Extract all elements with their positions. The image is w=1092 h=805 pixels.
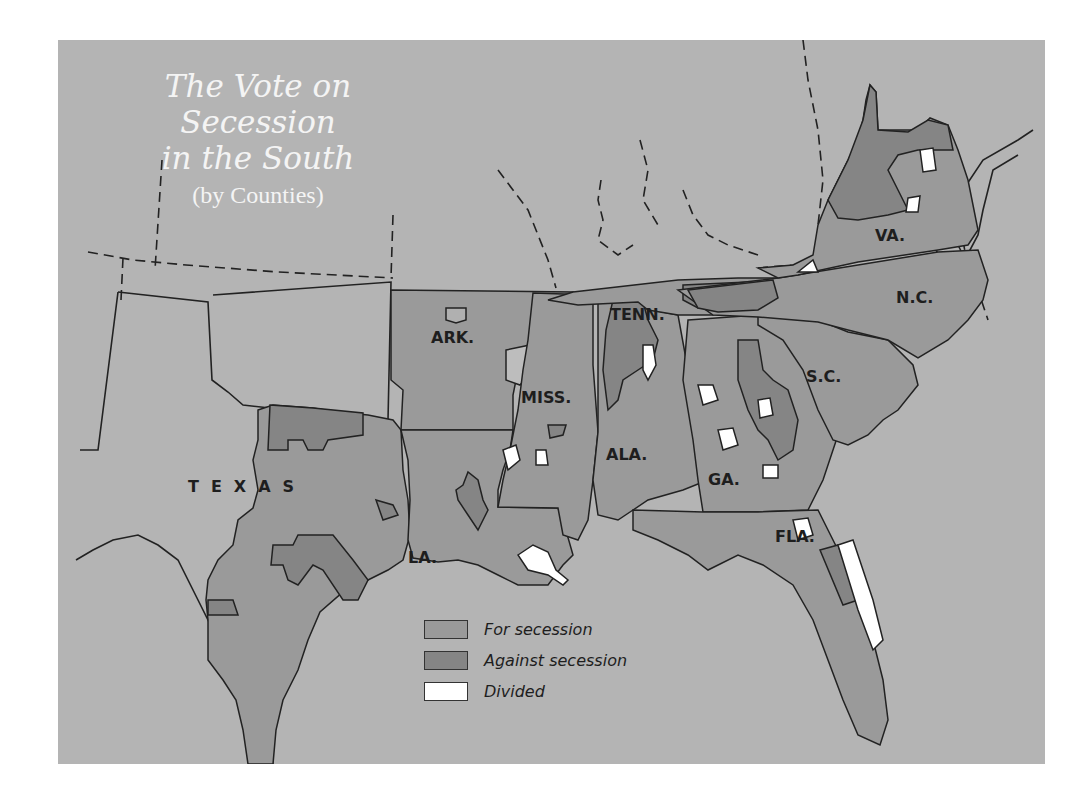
label-north-carolina: N.C.: [896, 288, 933, 307]
map-title: The Vote on Secession in the South (by C…: [88, 68, 428, 209]
texas-west-against: [208, 600, 238, 615]
arkansas-blob: [446, 308, 466, 323]
label-arkansas: ARK.: [431, 328, 474, 347]
label-tennessee: TENN.: [610, 305, 665, 324]
swatch-for-secession: [424, 620, 468, 639]
texas-shape: [206, 405, 410, 764]
title-line-1: The Vote on Secession: [88, 68, 428, 140]
legend-label-against: Against secession: [484, 651, 627, 670]
label-virginia: VA.: [875, 226, 905, 245]
map-legend: For secession Against secession Divided: [424, 614, 627, 707]
legend-label-divided: Divided: [484, 682, 545, 701]
legend-item-against: Against secession: [424, 645, 627, 676]
swatch-divided: [424, 682, 468, 701]
georgia-divided-3: [758, 398, 773, 418]
label-georgia: GA.: [708, 470, 740, 489]
virginia-divided-1: [920, 148, 936, 172]
label-alabama: ALA.: [606, 445, 647, 464]
label-texas: TEXAS: [188, 477, 306, 496]
legend-item-for: For secession: [424, 614, 627, 645]
map-panel: The Vote on Secession in the South (by C…: [58, 40, 1045, 764]
georgia-divided-4: [763, 465, 778, 478]
legend-label-for: For secession: [484, 620, 593, 639]
legend-item-divided: Divided: [424, 676, 627, 707]
mississippi-divided-2: [536, 450, 548, 465]
virginia-divided-2: [906, 196, 920, 212]
label-florida: FLA.: [775, 527, 815, 546]
label-south-carolina: S.C.: [806, 367, 841, 386]
map-subtitle: (by Counties): [88, 182, 428, 209]
swatch-against-secession: [424, 651, 468, 670]
title-line-2: in the South: [88, 140, 428, 176]
label-louisiana: LA.: [408, 548, 437, 567]
label-mississippi: MISS.: [521, 388, 571, 407]
